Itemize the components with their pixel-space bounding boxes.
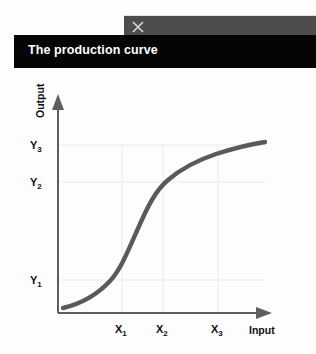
x-tick-label-3: X3: [211, 323, 223, 338]
x-axis-arrow: [256, 307, 272, 319]
x-tick-label-2: X2: [156, 323, 168, 338]
title-banner: The production curve: [14, 35, 316, 68]
y-axis-title: Output: [34, 83, 46, 118]
production-curve-chart: Y3 Y2 Y1 X1 X2 X3 Output Input: [0, 68, 316, 354]
production-curve-line: [63, 142, 265, 308]
x-axis-title: Input: [249, 324, 275, 336]
y-tick-label-1: Y1: [30, 274, 42, 289]
y-axis-arrow: [52, 94, 64, 110]
page-title: The production curve: [28, 43, 158, 57]
screenshot-root: The production curve Y3: [0, 0, 316, 354]
close-icon[interactable]: [130, 19, 146, 35]
y-tick-label-3: Y3: [30, 139, 42, 154]
y-tick-label-2: Y2: [30, 176, 42, 191]
x-tick-label-1: X1: [115, 323, 127, 338]
